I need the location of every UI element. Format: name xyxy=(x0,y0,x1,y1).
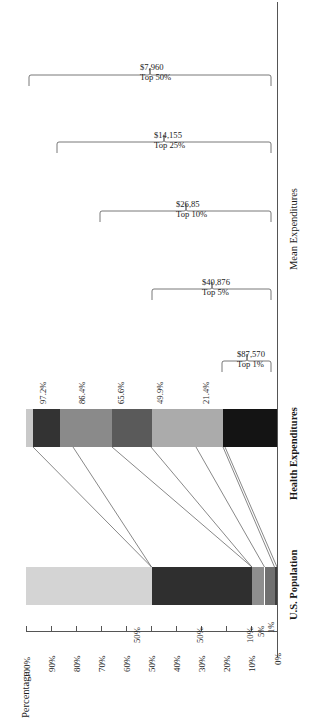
bracket-group-top5: Top 5% xyxy=(202,288,230,298)
bracket-group-top10: Top 10% xyxy=(176,210,207,220)
bracket-label-top1: $87,570 Top 1% xyxy=(237,350,265,369)
bracket-group-top25: Top 25% xyxy=(154,141,185,151)
bracket-group xyxy=(0,0,290,400)
chart-canvas: 100% 90% 80% 70% 60% 50% 40% 30% 20% 10%… xyxy=(0,0,320,724)
bar-health-expenditures xyxy=(26,409,277,447)
segment-health-972 xyxy=(33,409,60,447)
bracket-label-top10: $26,85 Top 10% xyxy=(176,200,207,219)
segment-health-rest xyxy=(26,409,33,447)
segment-health-864 xyxy=(60,409,112,447)
segment-health-656 xyxy=(112,409,151,447)
category-label-health-expenditures: Health Expenditures xyxy=(288,407,299,500)
segment-health-214 xyxy=(223,409,277,447)
bracket-group-top50: Top 50% xyxy=(140,73,171,83)
bracket-label-top5: $40,876 Top 5% xyxy=(202,278,230,297)
bracket-label-top25: $14,155 Top 25% xyxy=(154,131,185,150)
segment-health-499 xyxy=(152,409,224,447)
bracket-label-top50: $7,960 Top 50% xyxy=(140,63,171,82)
bracket-group-top1: Top 1% xyxy=(237,360,265,370)
